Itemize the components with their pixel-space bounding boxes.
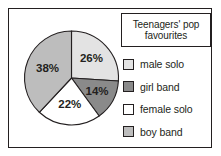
pie-slice-group	[25, 31, 119, 125]
pie-value-label-male-solo: 26%	[80, 52, 103, 64]
legend-swatch-female-solo	[123, 104, 134, 115]
pie-value-label-female-solo: 22%	[58, 98, 81, 110]
legend-label-female-solo: female solo	[140, 103, 193, 115]
chart-title-line-2: favourites	[145, 30, 187, 42]
legend-swatch-male-solo	[123, 59, 134, 70]
figure-frame: 26%14%22%38% Teenagers' pop favourites m…	[8, 8, 212, 148]
legend-label-girl-band: girl band	[140, 81, 179, 93]
pie-chart-plot-area: 26%14%22%38%	[20, 25, 123, 131]
pie-chart-figure: 26%14%22%38% Teenagers' pop favourites m…	[0, 0, 221, 156]
pie-value-label-boy-band: 38%	[36, 62, 59, 74]
legend-swatch-girl-band	[123, 81, 134, 92]
chart-title-line-1: Teenagers' pop	[133, 19, 200, 31]
pie-chart-svg: 26%14%22%38%	[20, 25, 123, 131]
legend-item-male-solo[interactable]: male solo	[123, 53, 184, 75]
legend-label-male-solo: male solo	[140, 58, 184, 70]
legend-item-female-solo[interactable]: female solo	[123, 98, 193, 120]
pie-value-label-girl-band: 14%	[85, 85, 108, 97]
chart-title-box: Teenagers' pop favourites	[121, 13, 211, 47]
legend-label-boy-band: boy band	[140, 126, 182, 138]
legend-item-girl-band[interactable]: girl band	[123, 76, 179, 98]
legend-item-boy-band[interactable]: boy band	[123, 121, 182, 143]
legend-swatch-boy-band	[123, 126, 134, 137]
chart-legend: male sologirl bandfemale soloboy band	[123, 53, 219, 145]
